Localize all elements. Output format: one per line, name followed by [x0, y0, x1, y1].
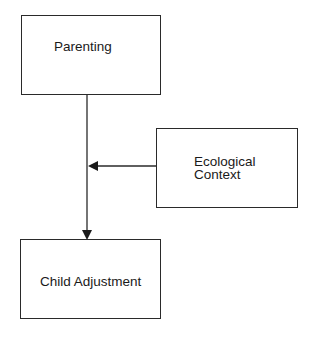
ecological-context-label-line2: Context — [194, 167, 241, 182]
child-adjustment-label: Child Adjustment — [40, 274, 141, 289]
parenting-label: Parenting — [54, 39, 112, 54]
arrowhead-left-icon — [88, 161, 98, 171]
parenting-box — [21, 15, 161, 95]
